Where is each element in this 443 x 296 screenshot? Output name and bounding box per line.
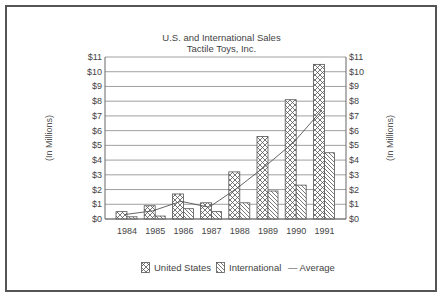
bar-us <box>313 64 324 219</box>
y-tick-label-right: $9 <box>349 81 359 91</box>
y-tick-label-left: $2 <box>92 185 102 195</box>
x-tick-label: 1988 <box>230 226 250 236</box>
y-tick-label-left: $6 <box>92 126 102 136</box>
y-tick-label-right: $1 <box>349 199 359 209</box>
bar-intl <box>268 191 278 219</box>
y-tick-label-left: $5 <box>92 140 102 150</box>
y-tick-label-right: $10 <box>349 67 364 77</box>
bar-us <box>116 212 127 219</box>
legend-item-intl: International <box>216 262 281 273</box>
legend-label-intl: International <box>229 262 281 273</box>
legend-item-us: United States <box>141 262 211 273</box>
diagonal-swatch-icon <box>216 262 225 273</box>
y-tick-label-left: $0 <box>92 214 102 224</box>
y-axis-title-right: (In Millions) <box>385 115 395 161</box>
x-tick-label: 1984 <box>117 226 137 236</box>
y-tick-label-left: $8 <box>92 96 102 106</box>
y-tick-label-right: $2 <box>349 185 359 195</box>
y-tick-label-right: $3 <box>349 170 359 180</box>
crosshatch-swatch-icon <box>141 262 150 273</box>
y-tick-label-right: $0 <box>349 214 359 224</box>
y-tick-label-left: $10 <box>87 67 102 77</box>
y-tick-label-right: $7 <box>349 111 359 121</box>
y-tick-label-right: $4 <box>349 155 359 165</box>
x-tick-label: 1985 <box>145 226 165 236</box>
legend-label-average: — Average <box>288 262 335 273</box>
bar-intl <box>183 209 193 219</box>
y-tick-label-left: $3 <box>92 170 102 180</box>
y-tick-label-left: $11 <box>88 52 102 62</box>
x-tick-label: 1990 <box>286 226 306 236</box>
bar-us <box>257 137 268 219</box>
bar-intl <box>324 153 334 219</box>
y-tick-label-right: $5 <box>349 140 359 150</box>
y-tick-label-left: $9 <box>92 81 102 91</box>
y-tick-label-left: $7 <box>92 111 102 121</box>
bar-us <box>285 100 296 219</box>
x-tick-label: 1989 <box>258 226 278 236</box>
bar-us <box>201 203 212 219</box>
y-axis-title-left: (In Millions) <box>44 115 54 161</box>
x-tick-label: 1986 <box>173 226 193 236</box>
y-tick-label-left: $4 <box>92 155 102 165</box>
bar-intl <box>212 212 222 219</box>
x-tick-label: 1987 <box>202 226 222 236</box>
legend-label-us: United States <box>154 262 211 273</box>
y-tick-label-right: $6 <box>349 126 359 136</box>
bar-us <box>144 206 155 219</box>
bar-intl <box>296 185 306 219</box>
axes <box>105 57 346 219</box>
axis-labels: $0$0$1$1$2$2$3$3$4$4$5$5$6$6$7$7$8$8$9$9… <box>44 52 395 236</box>
bar-intl <box>240 203 250 219</box>
bar-us <box>172 194 183 219</box>
bar-us <box>229 172 240 219</box>
y-tick-label-right: $11 <box>349 52 363 62</box>
y-tick-label-left: $1 <box>92 199 102 209</box>
chart-plot: $0$0$1$1$2$2$3$3$4$4$5$5$6$6$7$7$8$8$9$9… <box>0 0 443 296</box>
x-tick-label: 1991 <box>314 226 334 236</box>
y-tick-label-right: $8 <box>349 96 359 106</box>
grid-lines <box>105 57 346 219</box>
legend-item-average: — Average <box>288 262 335 273</box>
